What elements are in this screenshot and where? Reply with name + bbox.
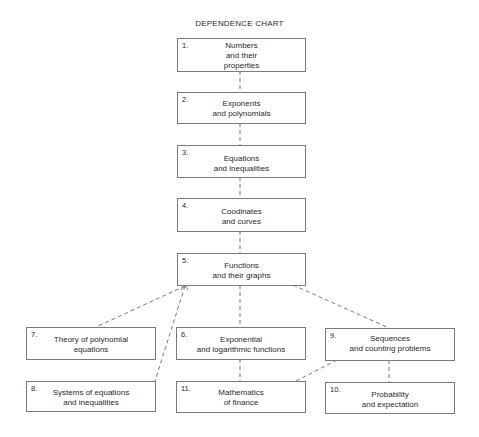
node-label: Functions and their graphs <box>178 261 305 281</box>
node-label: Equations and inequalities <box>178 154 305 174</box>
node-systems-of-equations-and-inequalities: 8. Systems of equations and inequalities <box>26 381 156 412</box>
node-sequences-and-counting-problems: 9. Sequences and counting problems <box>325 328 455 361</box>
node-equations-and-inequalities: 3. Equations and inequalities <box>177 145 306 178</box>
node-numbers-and-their-properties: 1. Numbers and their properties <box>177 38 306 72</box>
node-label: Coodinates and curves <box>178 207 305 227</box>
node-exponential-and-logarithmic-functions: 6. Exponential and logarithmic functions <box>176 327 306 360</box>
node-coordinates-and-curves: 4. Coodinates and curves <box>177 198 306 232</box>
node-label: Theory of polynomial equations <box>27 335 155 355</box>
node-probability-and-expectation: 10. Probability and expectation <box>325 382 455 414</box>
node-label: Systems of equations and inequalities <box>27 388 155 408</box>
node-exponents-and-polynomials: 2. Exponents and polynomials <box>177 92 306 124</box>
node-label: Mathematics of finance <box>177 388 305 408</box>
edge-5-9 <box>293 285 389 328</box>
node-label: Exponents and polynomials <box>178 99 305 119</box>
node-theory-of-polynomial-equations: 7. Theory of polynomial equations <box>26 327 156 360</box>
node-functions-and-their-graphs: 5. Functions and their graphs <box>177 253 306 286</box>
node-label: Probability and expectation <box>326 390 454 410</box>
node-label: Exponential and logarithmic functions <box>177 335 305 355</box>
edge-9-11 <box>296 360 337 381</box>
node-label: Numbers and their properties <box>178 41 305 71</box>
edge-5-7 <box>96 286 185 327</box>
node-label: Sequences and counting problems <box>326 334 454 354</box>
node-mathematics-of-finance: 11. Mathematics of finance <box>176 381 306 413</box>
